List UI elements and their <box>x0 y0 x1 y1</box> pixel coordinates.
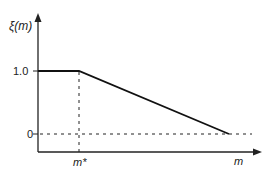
y-axis-label: ξ(m) <box>9 20 32 32</box>
x-axis-label: m <box>234 156 243 167</box>
x-axis-arrow-icon <box>253 149 262 156</box>
y-tick-1: 1.0 <box>13 66 28 77</box>
xi-curve <box>38 71 229 134</box>
plot <box>0 0 274 173</box>
x-tick-mstar: m* <box>73 157 86 168</box>
y-axis-arrow-icon <box>35 13 42 22</box>
y-tick-0: 0 <box>27 129 33 140</box>
